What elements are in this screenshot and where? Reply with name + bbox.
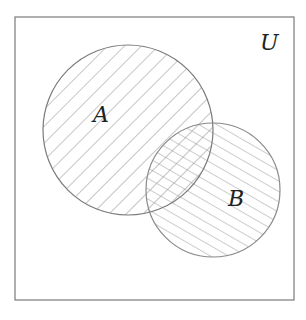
- venn-diagram: A B U: [0, 0, 306, 320]
- universe-label: U: [260, 30, 280, 55]
- set-a-label: A: [91, 102, 109, 127]
- set-b-label: B: [227, 186, 244, 211]
